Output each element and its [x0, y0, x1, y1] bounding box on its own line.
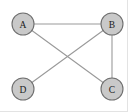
edge-layer — [23, 24, 112, 89]
graph-node-label-c: C — [109, 85, 115, 95]
graph-node-label-a: A — [20, 20, 27, 30]
graph-figure: ABCD — [0, 0, 128, 112]
graph-canvas: ABCD — [0, 0, 128, 112]
graph-node-label-b: B — [109, 20, 115, 30]
graph-node-c: C — [101, 78, 123, 100]
graph-node-b: B — [101, 13, 123, 35]
graph-node-a: A — [12, 13, 34, 35]
graph-node-d: D — [12, 78, 34, 100]
graph-node-label-d: D — [20, 85, 27, 95]
